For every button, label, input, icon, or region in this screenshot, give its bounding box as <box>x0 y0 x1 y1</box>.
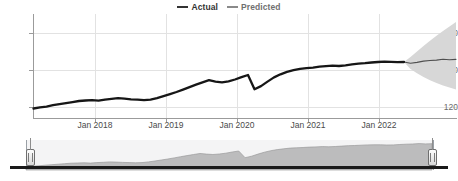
navigator-baseline <box>10 166 448 169</box>
navigator[interactable] <box>0 136 458 181</box>
forecast-chart: Actual Predicted 160 140 120 Jan 2018 Ja… <box>0 0 458 181</box>
actual-series-line <box>34 62 405 109</box>
navigator-left-handle-stem <box>30 138 31 150</box>
navigator-left-handle[interactable] <box>26 149 35 166</box>
prediction-interval-band <box>404 22 456 90</box>
navigator-right-handle-stem <box>432 138 433 150</box>
navigator-right-handle[interactable] <box>428 149 437 166</box>
